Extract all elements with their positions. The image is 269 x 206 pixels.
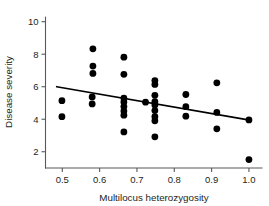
x-tick-label: 0.7 (130, 174, 143, 185)
data-point (213, 125, 220, 132)
x-axis-title: Multilocus heterozygosity (99, 192, 209, 203)
data-point (151, 133, 158, 140)
data-point (120, 71, 127, 78)
y-axis-tick-labels: 246810 (28, 16, 39, 157)
data-point (151, 107, 158, 114)
x-tick-label: 0.5 (56, 174, 69, 185)
data-point (90, 70, 97, 77)
x-axis: 0.50.60.70.80.91.0 (46, 168, 263, 185)
data-point (120, 129, 127, 136)
x-axis-tick-labels: 0.50.60.70.80.91.0 (56, 174, 256, 185)
x-tick-label: 0.6 (93, 174, 106, 185)
y-tick-label: 8 (33, 49, 38, 60)
y-axis-title: Disease severity (3, 56, 14, 128)
data-point (89, 94, 96, 101)
data-point (59, 113, 66, 120)
x-tick-label: 0.9 (205, 174, 218, 185)
y-tick-label: 10 (28, 16, 39, 27)
data-point (151, 92, 158, 99)
data-point (246, 156, 253, 163)
data-point (120, 112, 127, 119)
y-tick-label: 6 (33, 81, 38, 92)
data-point (59, 97, 66, 104)
y-tick-label: 4 (33, 114, 38, 125)
y-tick-label: 2 (33, 146, 38, 157)
data-point (120, 54, 127, 61)
y-axis-ticks (42, 22, 46, 152)
x-axis-ticks (62, 168, 249, 172)
data-point (90, 63, 97, 70)
data-point (182, 113, 189, 120)
data-point (182, 91, 189, 98)
data-point (90, 45, 97, 52)
x-tick-label: 1.0 (242, 174, 255, 185)
data-point (151, 117, 158, 124)
plot-canvas: 246810 0.50.60.70.80.91.0 Multilocus het… (0, 0, 269, 206)
data-point (151, 81, 158, 88)
data-point (213, 79, 220, 86)
data-point (89, 101, 96, 108)
scatter-plot-figure: 246810 0.50.60.70.80.91.0 Multilocus het… (0, 0, 269, 206)
x-tick-label: 0.8 (168, 174, 181, 185)
y-axis: 246810 (28, 16, 46, 168)
